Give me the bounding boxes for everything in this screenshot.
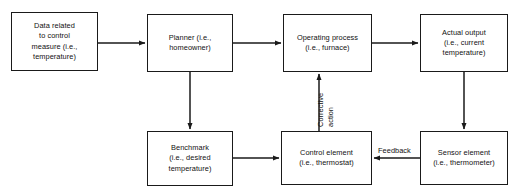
node-data-related-to-control-measure[interactable]: Data related to control measure (i.e., t…	[11, 12, 98, 71]
node-label: Sensor element (i.e., thermometer)	[430, 148, 498, 168]
node-label: Benchmark (i.e., desired temperature)	[166, 143, 215, 174]
node-label: Actual output (i.e., current temperature…	[439, 28, 489, 59]
node-label: Data related to control measure (i.e., t…	[29, 21, 81, 62]
node-planner[interactable]: Planner (i.e., homeowner)	[147, 14, 233, 72]
edge-label-corrective: Corrective	[316, 93, 325, 127]
node-sensor-element[interactable]: Sensor element (i.e., thermometer)	[420, 131, 508, 185]
node-control-element[interactable]: Control element (i.e., thermostat)	[281, 131, 372, 185]
diagram-canvas: Data related to control measure (i.e., t…	[0, 0, 516, 195]
edge-label-action: action	[326, 107, 335, 127]
node-benchmark[interactable]: Benchmark (i.e., desired temperature)	[147, 131, 233, 186]
node-label: Planner (i.e., homeowner)	[166, 33, 215, 53]
node-operating-process[interactable]: Operating process (i.e., furnace)	[283, 14, 372, 72]
edge-label-feedback: Feedback	[378, 146, 411, 155]
node-label: Control element (i.e., thermostat)	[296, 148, 357, 168]
node-label: Operating process (i.e., furnace)	[294, 33, 361, 53]
node-actual-output[interactable]: Actual output (i.e., current temperature…	[420, 14, 508, 72]
